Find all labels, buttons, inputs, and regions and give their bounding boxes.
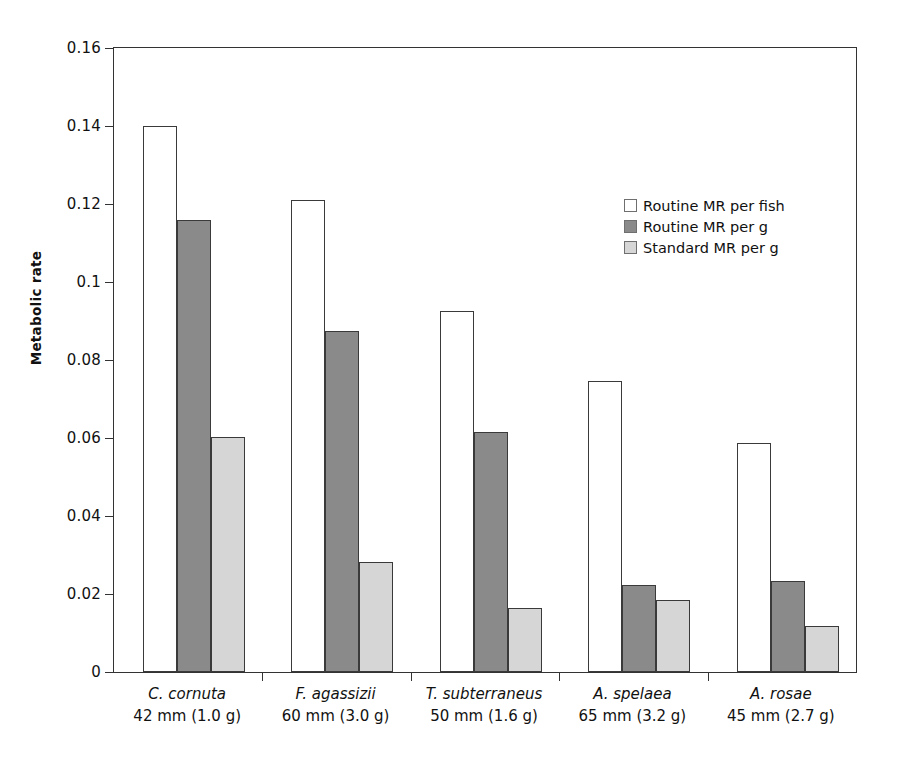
species-size: 50 mm (1.6 g) — [410, 706, 558, 728]
bar — [177, 220, 211, 672]
legend-label: Routine MR per g — [643, 219, 768, 235]
y-axis-tick — [105, 516, 114, 517]
metabolic-rate-bar-chart: Metabolic rate 00.020.040.060.080.10.120… — [0, 0, 902, 760]
species-name: A. rosae — [707, 684, 855, 706]
y-axis-tick-label: 0.08 — [67, 351, 101, 369]
plot-frame: 00.020.040.060.080.10.120.140.16 — [113, 47, 857, 673]
legend-label: Standard MR per g — [643, 240, 779, 256]
y-axis-tick-label: 0.16 — [67, 39, 101, 57]
species-size: 60 mm (3.0 g) — [261, 706, 409, 728]
y-axis-tick — [105, 204, 114, 205]
bar — [440, 311, 474, 672]
bar — [143, 126, 177, 672]
bar — [622, 585, 656, 672]
y-axis-tick — [105, 594, 114, 595]
x-axis-tick — [262, 672, 263, 681]
bar — [474, 432, 508, 672]
x-axis-category-label: C. cornuta42 mm (1.0 g) — [113, 684, 261, 728]
y-axis-tick — [105, 48, 114, 49]
bar — [656, 600, 690, 672]
bar — [291, 200, 325, 672]
y-axis-tick-label: 0.1 — [77, 273, 101, 291]
chart-legend: Routine MR per fishRoutine MR per gStand… — [624, 195, 785, 258]
bar — [588, 381, 622, 672]
species-name: C. cornuta — [113, 684, 261, 706]
y-axis-tick-label: 0 — [91, 663, 101, 681]
bar — [211, 437, 245, 672]
y-axis-tick — [105, 360, 114, 361]
legend-swatch — [624, 199, 637, 212]
bar — [771, 581, 805, 672]
x-axis-category-label: T. subterraneus50 mm (1.6 g) — [410, 684, 558, 728]
y-axis-tick-label: 0.12 — [67, 195, 101, 213]
y-axis-tick-label: 0.14 — [67, 117, 101, 135]
bar — [359, 562, 393, 672]
y-axis-tick — [105, 282, 114, 283]
x-axis-category-label: A. spelaea65 mm (3.2 g) — [558, 684, 706, 728]
y-axis-tick — [105, 126, 114, 127]
legend-item: Routine MR per fish — [624, 195, 785, 216]
legend-item: Routine MR per g — [624, 216, 785, 237]
species-size: 65 mm (3.2 g) — [558, 706, 706, 728]
y-axis-tick-label: 0.02 — [67, 585, 101, 603]
legend-swatch — [624, 220, 637, 233]
bar — [508, 608, 542, 672]
bar — [325, 331, 359, 672]
legend-item: Standard MR per g — [624, 237, 785, 258]
y-axis-tick-label: 0.06 — [67, 429, 101, 447]
x-axis-category-label: F. agassizii60 mm (3.0 g) — [261, 684, 409, 728]
y-axis-tick — [105, 438, 114, 439]
bar — [737, 443, 771, 672]
y-axis-title: Metabolic rate — [28, 228, 44, 388]
species-size: 42 mm (1.0 g) — [113, 706, 261, 728]
plot-area: 00.020.040.060.080.10.120.140.16 — [114, 48, 856, 672]
y-axis-tick — [105, 672, 114, 673]
y-axis-tick-label: 0.04 — [67, 507, 101, 525]
species-size: 45 mm (2.7 g) — [707, 706, 855, 728]
x-axis-tick — [411, 672, 412, 681]
species-name: T. subterraneus — [410, 684, 558, 706]
legend-label: Routine MR per fish — [643, 198, 785, 214]
species-name: F. agassizii — [261, 684, 409, 706]
x-axis-category-label: A. rosae45 mm (2.7 g) — [707, 684, 855, 728]
x-axis-tick — [708, 672, 709, 681]
species-name: A. spelaea — [558, 684, 706, 706]
bar — [805, 626, 839, 672]
x-axis-tick — [559, 672, 560, 681]
legend-swatch — [624, 241, 637, 254]
